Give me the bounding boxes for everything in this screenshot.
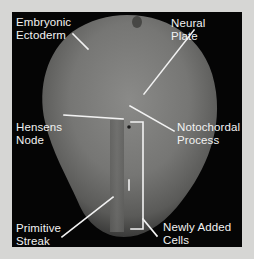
label-neural-plate: Neural Plate — [171, 17, 205, 43]
label-notochordal-process: Notochordal Process — [177, 121, 240, 147]
label-embryonic-ectoderm: Embryonic Ectoderm — [16, 16, 71, 42]
micrograph-panel: Embryonic Ectoderm Neural Plate Hensens … — [12, 12, 242, 247]
label-newly-added-cells: Newly Added Cells — [163, 221, 231, 247]
hensens-node-dot — [127, 125, 131, 129]
primitive-streak-region — [110, 120, 124, 232]
dark-spot — [132, 16, 142, 28]
label-primitive-streak: Primitive Streak — [16, 222, 61, 247]
label-hensens-node: Hensens Node — [16, 121, 62, 147]
